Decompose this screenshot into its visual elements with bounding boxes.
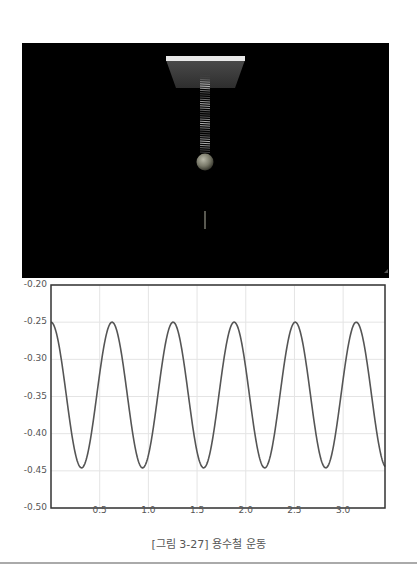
- figure-caption: [그림 3-27] 용수철 운동: [0, 535, 417, 551]
- resize-grip-icon: [384, 269, 388, 273]
- plot-area: [0, 278, 417, 523]
- simulation-3d-view[interactable]: [22, 43, 389, 278]
- x-tick-label: 3.0: [336, 505, 350, 515]
- y-tick-label: -0.35: [0, 391, 47, 401]
- page-divider: [0, 562, 417, 564]
- y-tick-label: -0.30: [0, 353, 47, 363]
- position-chart: [0, 278, 417, 523]
- x-tick-label: 2.5: [287, 505, 301, 515]
- y-tick-label: -0.50: [0, 502, 47, 512]
- spring-mass-scene: [22, 43, 389, 278]
- y-tick-label: -0.25: [0, 316, 47, 326]
- y-tick-label: -0.20: [0, 279, 47, 289]
- x-tick-label: 1.5: [190, 505, 204, 515]
- ceiling-edge: [166, 56, 245, 61]
- y-tick-label: -0.40: [0, 428, 47, 438]
- x-tick-label: 0.5: [93, 505, 107, 515]
- x-tick-label: 1.0: [141, 505, 155, 515]
- y-tick-label: -0.45: [0, 465, 47, 475]
- mass-ball: [197, 154, 214, 171]
- x-tick-label: 2.0: [239, 505, 253, 515]
